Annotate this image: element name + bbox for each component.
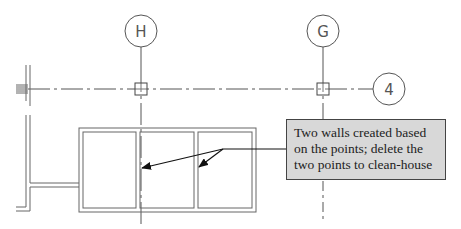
callout-text: Two walls created based on the points; d… (294, 125, 432, 172)
room-outer-wall (79, 128, 256, 212)
left-wall (16, 65, 79, 211)
room-bay-2[interactable] (140, 132, 194, 208)
room-bay-3 (198, 132, 252, 208)
point-marker-g4[interactable] (317, 83, 329, 95)
grid-label-h: H (135, 23, 146, 41)
room-block (79, 128, 256, 212)
floor-plan-diagram: H G 4 (0, 0, 461, 229)
grid-line-g: G (307, 15, 339, 219)
callout-leaders (142, 149, 286, 168)
grid-label-4: 4 (384, 81, 394, 99)
grid-line-h: H (125, 15, 157, 225)
grid-line-4: 4 (28, 73, 405, 105)
point-marker-h4[interactable] (135, 83, 147, 95)
room-bay-1 (83, 132, 136, 208)
callout-note: Two walls created based on the points; d… (286, 119, 446, 180)
grid-label-g: G (317, 23, 329, 41)
